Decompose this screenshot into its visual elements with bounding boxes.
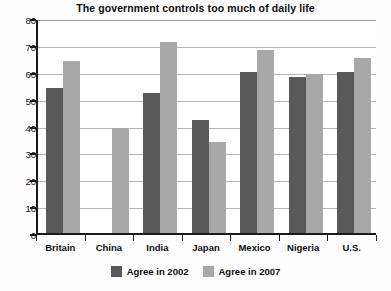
x-tick-label: Britain <box>45 242 75 253</box>
x-tick-label: Nigeria <box>287 242 319 253</box>
x-tick-mark <box>376 235 377 241</box>
bar <box>160 42 177 233</box>
chart-legend: Agree in 2002Agree in 2007 <box>0 266 391 277</box>
legend-entry: Agree in 2007 <box>203 266 281 277</box>
bar <box>337 72 354 233</box>
legend-swatch-icon <box>111 266 122 277</box>
x-tick-mark <box>85 235 86 241</box>
bar-group <box>184 20 233 233</box>
bar <box>240 72 257 233</box>
bar <box>63 61 80 233</box>
chart-title: The government controls too much of dail… <box>0 2 391 14</box>
legend-swatch-icon <box>203 266 214 277</box>
x-tick-label: Japan <box>192 242 219 253</box>
bar-group <box>38 20 87 233</box>
bar-group <box>232 20 281 233</box>
legend-label: Agree in 2007 <box>219 266 281 277</box>
legend-label: Agree in 2002 <box>127 266 189 277</box>
plot-frame <box>36 20 376 235</box>
x-tick-label: China <box>96 242 122 253</box>
x-tick-label: Mexico <box>238 242 270 253</box>
x-tick-mark <box>36 235 37 241</box>
bar-group <box>329 20 378 233</box>
bar <box>192 120 209 233</box>
bar <box>112 128 129 233</box>
bar <box>354 58 371 233</box>
bar <box>46 88 63 233</box>
x-tick-mark <box>182 235 183 241</box>
bar-group <box>87 20 136 233</box>
x-tick-label: India <box>146 242 168 253</box>
bar <box>209 142 226 233</box>
plot-area <box>38 20 376 233</box>
x-tick-label: U.S. <box>342 242 360 253</box>
bar <box>289 77 306 233</box>
x-tick-mark <box>133 235 134 241</box>
y-axis: 01020304050607080 <box>0 20 36 235</box>
x-tick-mark <box>279 235 280 241</box>
bar <box>257 50 274 233</box>
bar <box>306 74 323 233</box>
x-axis: BritainChinaIndiaJapanMexicoNigeriaU.S. <box>36 235 376 259</box>
bar-group <box>135 20 184 233</box>
bar <box>143 93 160 233</box>
legend-entry: Agree in 2002 <box>111 266 189 277</box>
x-tick-mark <box>327 235 328 241</box>
bar-chart: The government controls too much of dail… <box>0 0 391 291</box>
x-tick-mark <box>230 235 231 241</box>
bar-group <box>281 20 330 233</box>
